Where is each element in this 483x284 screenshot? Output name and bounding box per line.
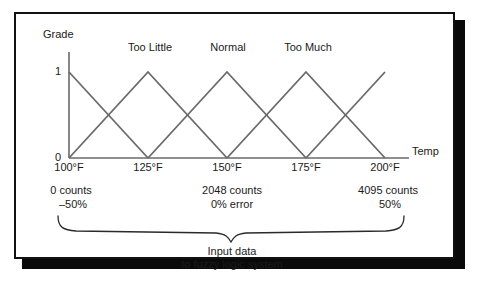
- input-range-brace: [58, 216, 404, 242]
- y-axis-label: Grade: [43, 28, 74, 41]
- annotation-left-percent: –50%: [59, 198, 87, 211]
- brace-caption-line1: Input data: [208, 245, 257, 258]
- membership-too-much: [227, 72, 385, 158]
- x-tick-150f: 150°F: [212, 161, 241, 174]
- set-label-too-little: Too Little: [128, 41, 172, 54]
- y-tick-1: 1: [55, 65, 61, 78]
- membership-normal: [148, 72, 306, 158]
- x-axis-label: Temp: [412, 145, 439, 158]
- set-label-normal: Normal: [210, 41, 245, 54]
- annotation-right-percent: 50%: [379, 198, 401, 211]
- x-tick-125f: 125°F: [133, 161, 162, 174]
- x-tick-100f: 100°F: [54, 161, 83, 174]
- annotation-left-counts: 0 counts: [50, 184, 92, 197]
- figure-page: Grade Temp 1 0 Too Little Normal Too Muc…: [0, 0, 483, 284]
- annotation-right-counts: 4095 counts: [358, 184, 418, 197]
- annotation-middle-percent: 0% error: [211, 198, 253, 211]
- set-label-too-much: Too Much: [284, 41, 332, 54]
- membership-too-little: [69, 72, 227, 158]
- brace-caption-line2: to fuzzy logic system: [181, 258, 282, 271]
- x-tick-200f: 200°F: [370, 161, 399, 174]
- x-tick-175f: 175°F: [291, 161, 320, 174]
- annotation-middle-counts: 2048 counts: [202, 184, 262, 197]
